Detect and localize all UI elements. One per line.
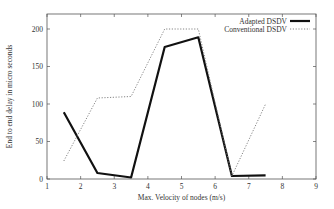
y-axis-label: End to end delay in micro seconds — [5, 45, 14, 148]
y-tick-label: 100 — [32, 100, 44, 109]
data-series — [64, 29, 266, 178]
x-tick-label: 2 — [79, 182, 83, 191]
x-tick-label: 9 — [314, 182, 318, 191]
x-tick-label: 1 — [45, 182, 49, 191]
y-tick-label: 200 — [32, 25, 44, 34]
y-tick-label: 150 — [32, 62, 44, 71]
legend: Adapted DSDV Conventional DSDV — [224, 17, 310, 34]
x-tick-label: 8 — [281, 182, 285, 191]
legend-label-conventional: Conventional DSDV — [224, 25, 287, 34]
tick-labels: 123456789050100150200 — [32, 25, 318, 192]
x-axis-label: Max. Velocity of nodes (m/s) — [138, 193, 226, 202]
x-tick-label: 7 — [247, 182, 251, 191]
x-tick-label: 6 — [213, 182, 217, 191]
y-tick-label: 0 — [39, 175, 43, 184]
line-chart: 123456789050100150200 Max. Velocity of n… — [0, 0, 334, 209]
series-adapted-dsdv — [64, 37, 266, 177]
x-tick-label: 4 — [146, 182, 150, 191]
y-tick-label: 50 — [36, 137, 44, 146]
x-tick-label: 5 — [180, 182, 184, 191]
x-tick-label: 3 — [112, 182, 116, 191]
